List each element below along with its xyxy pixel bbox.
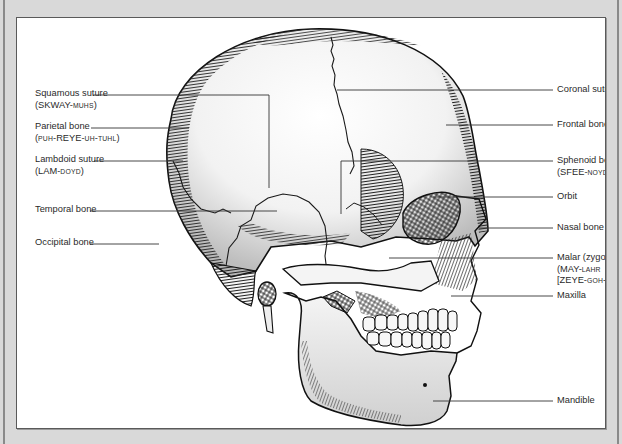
label-sphenoid-bone: Sphenoid bone (SFEE-NOYD) <box>557 155 606 178</box>
label-nasal-bone: Nasal bone <box>557 222 604 234</box>
label-lambdoid-suture: Lambdoid suture (LAM-DOYD) <box>35 154 104 177</box>
label-occipital-bone: Occipital bone <box>35 237 94 249</box>
ear-canal <box>258 282 276 306</box>
label-name: Sphenoid bone <box>557 155 606 167</box>
label-pronunciation: (LAM-DOYD) <box>35 166 104 178</box>
label-maxilla: Maxilla <box>557 290 586 302</box>
figure-panel: Squamous suture (SKWAY-MUHS) Parietal bo… <box>16 17 606 429</box>
label-mandible: Mandible <box>557 395 595 407</box>
label-name: Occipital bone <box>35 237 94 249</box>
label-orbit: Orbit <box>557 191 577 203</box>
mental-foramen <box>423 383 427 387</box>
label-temporal-bone: Temporal bone <box>35 204 97 216</box>
label-name: Nasal bone <box>557 222 604 234</box>
label-pronunciation: (MAY-LAHR <box>557 264 606 276</box>
page-edge-right <box>617 0 619 444</box>
label-name: Squamous suture <box>35 88 108 100</box>
page-edge-left <box>3 0 5 444</box>
label-pronunciation: (PUH-REYE-UH-TUHL) <box>35 133 120 145</box>
label-name: Lambdoid suture <box>35 154 104 166</box>
skull-illustration <box>17 18 605 428</box>
label-name: Orbit <box>557 191 577 203</box>
label-pronunciation-alt: [ZEYE-GOH-MAT-IK]) <box>557 275 606 287</box>
label-name: Malar (zygomatic) bone <box>557 252 606 264</box>
label-pronunciation: (SKWAY-MUHS) <box>35 100 108 112</box>
label-name: Mandible <box>557 395 595 407</box>
label-name: Temporal bone <box>35 204 97 216</box>
label-name: Parietal bone <box>35 121 120 133</box>
label-name: Coronal suture <box>557 84 606 96</box>
label-name: Frontal bone <box>557 119 606 131</box>
label-frontal-bone: Frontal bone <box>557 119 606 131</box>
label-coronal-suture: Coronal suture <box>557 84 606 96</box>
label-malar-bone: Malar (zygomatic) bone (MAY-LAHR [ZEYE-G… <box>557 252 606 287</box>
label-pronunciation: (SFEE-NOYD) <box>557 167 606 179</box>
label-name: Maxilla <box>557 290 586 302</box>
teeth <box>363 309 457 349</box>
label-parietal-bone: Parietal bone (PUH-REYE-UH-TUHL) <box>35 121 120 144</box>
label-squamous-suture: Squamous suture (SKWAY-MUHS) <box>35 88 108 111</box>
